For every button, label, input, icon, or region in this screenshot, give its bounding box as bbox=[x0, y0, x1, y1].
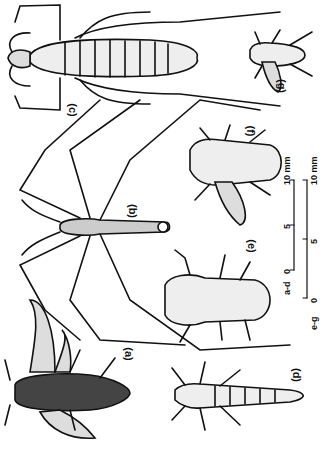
label-b: (b) bbox=[127, 204, 139, 218]
label-g: (g) bbox=[276, 79, 288, 93]
label-a: (a) bbox=[123, 347, 135, 360]
label-c: (c) bbox=[67, 103, 79, 116]
label-e: (e) bbox=[246, 239, 258, 252]
scale-a-d-group: a-d bbox=[282, 282, 292, 296]
scale-e-g-group: e-g bbox=[309, 317, 319, 331]
insect-d-drawing bbox=[172, 362, 303, 430]
scale-e-g-tick-0: 0 bbox=[309, 298, 319, 303]
scale-bar-e-g bbox=[303, 180, 307, 298]
scale-a-d-tick-10: 10 mm bbox=[282, 156, 292, 185]
label-d: (d) bbox=[291, 368, 303, 382]
insect-c-drawing bbox=[8, 5, 280, 110]
scale-e-g-tick-10: 10 mm bbox=[309, 156, 319, 185]
insect-a-drawing bbox=[5, 300, 130, 438]
label-f: (f) bbox=[245, 126, 257, 137]
scale-a-d-tick-5: 5 bbox=[282, 224, 292, 229]
scale-a-d-tick-0: 0 bbox=[282, 269, 292, 274]
insect-figure: (a) (b) (c) (d) (e) (f) (g) a-d 0 5 10 m… bbox=[0, 0, 326, 456]
insect-e-drawing bbox=[165, 250, 270, 342]
scale-e-g-tick-5: 5 bbox=[309, 239, 319, 244]
insect-drawings bbox=[0, 0, 326, 456]
insect-f-drawing bbox=[190, 125, 281, 225]
